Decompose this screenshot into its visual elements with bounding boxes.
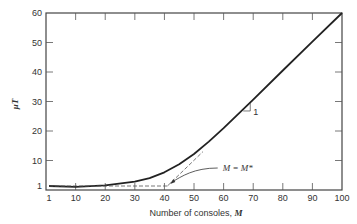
x-tick-label: 100 <box>334 193 349 203</box>
x-tick-label: 70 <box>248 193 258 203</box>
series-line-0 <box>49 13 342 187</box>
x-axis-label: Number of consoles, M <box>149 208 243 218</box>
y-tick-label: 60 <box>32 8 42 18</box>
y-axis-ticks: 1102030405060 <box>32 8 342 191</box>
annotations: 1M = M* <box>170 103 258 184</box>
x-tick-label: 40 <box>159 193 169 203</box>
threshold-label: M = M* <box>222 163 254 173</box>
slope-label: 1 <box>253 107 258 117</box>
plot-border <box>46 13 342 190</box>
y-tick-label: 40 <box>32 67 42 77</box>
x-tick-label: 50 <box>189 193 199 203</box>
x-tick-label: 60 <box>219 193 229 203</box>
x-axis-label-variable: M <box>234 208 244 218</box>
y-tick-label: 20 <box>32 126 42 136</box>
arrow-head-icon <box>170 179 175 184</box>
annotation-arrow <box>170 168 217 183</box>
x-tick-label: 30 <box>130 193 140 203</box>
x-tick-label: 90 <box>307 193 317 203</box>
y-tick-label: 10 <box>32 156 42 166</box>
x-tick-label: 1 <box>46 193 51 203</box>
y-axis-label: μT <box>10 98 20 110</box>
x-tick-label: 10 <box>71 193 81 203</box>
chart: 1102030405060708090100 1102030405060 1M … <box>0 0 357 224</box>
x-tick-label: 80 <box>278 193 288 203</box>
x-tick-label: 20 <box>100 193 110 203</box>
y-tick-label: 1 <box>37 181 42 191</box>
plot-frame <box>46 13 342 190</box>
x-axis-label-text: Number of consoles, <box>149 208 234 218</box>
x-axis-ticks: 1102030405060708090100 <box>46 13 349 203</box>
y-tick-label: 30 <box>32 97 42 107</box>
data-series <box>49 13 342 187</box>
y-tick-label: 50 <box>32 38 42 48</box>
